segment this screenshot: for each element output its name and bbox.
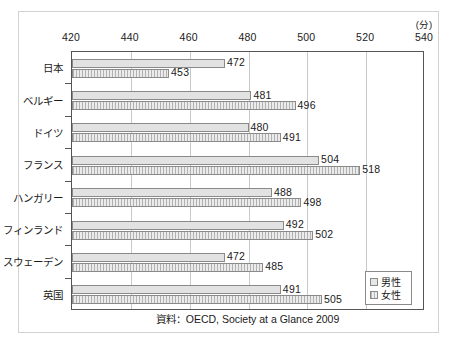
value-label-female-7: 505 — [324, 293, 342, 305]
category-label-1: ベルギー — [23, 92, 63, 107]
value-label-female-6: 485 — [265, 260, 283, 272]
x-tick-label-520: 520 — [356, 31, 374, 43]
bar-male-3 — [72, 156, 319, 165]
category-label-4: ハンガリー — [13, 189, 63, 204]
value-label-female-2: 491 — [283, 131, 301, 143]
x-tick-label-420: 420 — [62, 31, 80, 43]
legend-item-female: 女性 — [370, 288, 407, 301]
gridline-500 — [307, 52, 308, 309]
x-tick-label-540: 540 — [415, 31, 433, 43]
category-label-3: フランス — [23, 157, 63, 172]
bar-female-3 — [72, 166, 360, 175]
value-label-male-2: 480 — [251, 121, 269, 133]
value-label-female-0: 453 — [171, 66, 189, 78]
chart-figure: 420440460480500520540 (分) 日本ベルギードイツフランスハ… — [0, 0, 459, 350]
bar-female-4 — [72, 198, 301, 207]
value-label-female-5: 502 — [315, 228, 333, 240]
value-label-female-1: 496 — [298, 99, 316, 111]
x-tick-label-500: 500 — [297, 31, 315, 43]
bar-male-7 — [72, 285, 281, 294]
category-label-0: 日本 — [43, 60, 63, 75]
bar-male-6 — [72, 253, 225, 262]
legend: 男性女性 — [365, 271, 412, 305]
value-label-female-4: 498 — [303, 196, 321, 208]
category-label-2: ドイツ — [33, 124, 63, 139]
x-tick-label-440: 440 — [121, 31, 139, 43]
source-note: 資料：OECD, Society at a Glance 2009 — [71, 311, 424, 326]
bar-female-1 — [72, 101, 296, 110]
value-label-male-5: 492 — [286, 218, 304, 230]
bar-male-0 — [72, 59, 225, 68]
category-label-6: スウェーデン — [3, 254, 63, 269]
bar-female-5 — [72, 231, 313, 240]
bar-female-7 — [72, 295, 322, 304]
value-label-male-3: 504 — [321, 153, 339, 165]
value-label-male-4: 488 — [274, 186, 292, 198]
bar-male-1 — [72, 91, 251, 100]
legend-swatch-female — [370, 291, 378, 299]
bar-male-2 — [72, 123, 249, 132]
category-label-5: フィンランド — [3, 222, 63, 237]
x-tick-label-480: 480 — [238, 31, 256, 43]
bar-female-6 — [72, 263, 263, 272]
value-label-male-0: 472 — [227, 56, 245, 68]
value-label-male-6: 472 — [227, 250, 245, 262]
bar-male-4 — [72, 188, 272, 197]
legend-swatch-male — [370, 278, 378, 286]
value-label-male-1: 481 — [253, 89, 271, 101]
category-label-7: 英国 — [43, 286, 63, 301]
bar-female-0 — [72, 69, 169, 78]
x-tick-label-460: 460 — [180, 31, 198, 43]
value-label-female-3: 518 — [362, 163, 380, 175]
bar-female-2 — [72, 133, 281, 142]
value-label-male-7: 491 — [283, 283, 301, 295]
legend-label-female: 女性 — [381, 287, 401, 302]
bar-male-5 — [72, 221, 284, 230]
x-axis-unit-label: (分) — [416, 17, 432, 31]
